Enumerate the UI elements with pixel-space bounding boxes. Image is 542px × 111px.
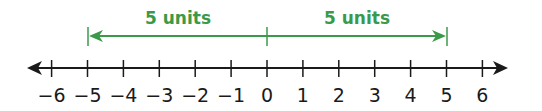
tick-label: 3	[369, 84, 381, 106]
tick-label: −6	[38, 84, 66, 106]
left-distance-label: 5 units	[145, 8, 211, 28]
tick-label: 4	[405, 84, 417, 106]
tick-label: 2	[333, 84, 345, 106]
tick-label: −4	[109, 84, 137, 106]
distance-left	[88, 27, 267, 46]
tick-label: −5	[73, 84, 101, 106]
tick-label: 6	[476, 84, 488, 106]
tick-label: −1	[217, 84, 245, 106]
distance-right	[267, 27, 447, 46]
number-line-diagram: −6−5−4−3−2−10123456 5 units 5 units	[0, 0, 542, 111]
right-distance-label: 5 units	[324, 8, 390, 28]
tick-label: 5	[440, 84, 452, 106]
tick-label: 1	[297, 84, 309, 106]
tick-label: −3	[145, 84, 173, 106]
tick-label: −2	[181, 84, 209, 106]
tick-label: 0	[261, 84, 273, 106]
